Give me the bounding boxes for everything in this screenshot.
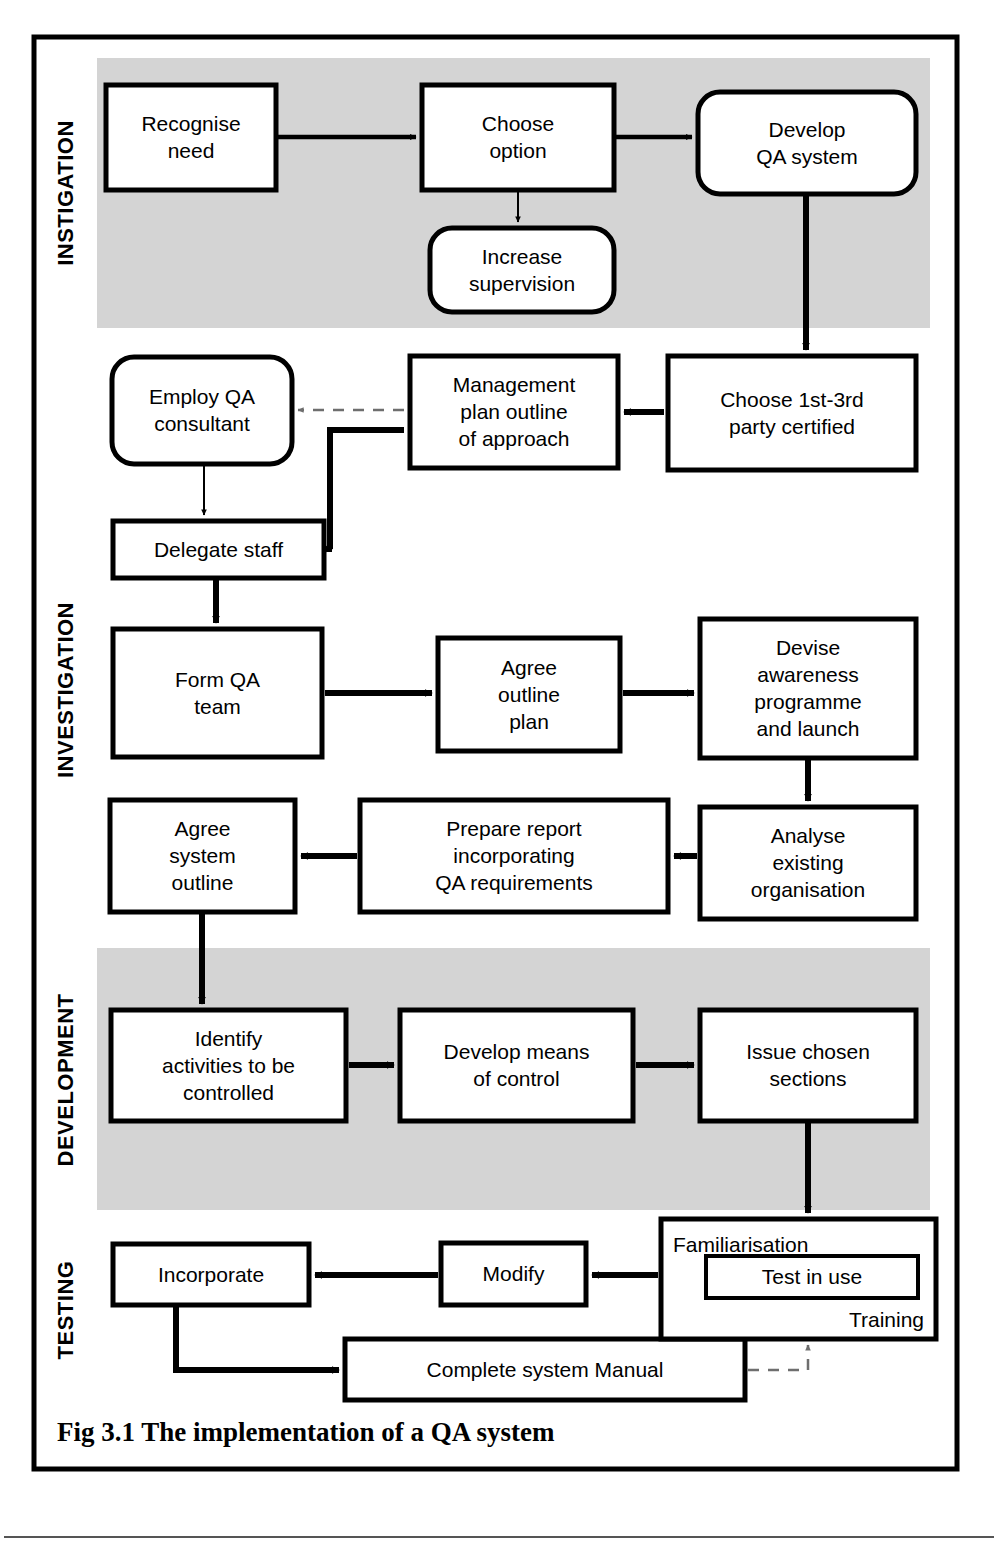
connector-e-management-to-delegate xyxy=(330,430,404,549)
node-label: team xyxy=(194,695,241,718)
node-box xyxy=(700,1010,916,1121)
node-label: Issue chosen xyxy=(746,1040,870,1063)
node-label: and launch xyxy=(757,717,860,740)
node-label: incorporating xyxy=(453,844,574,867)
node-box xyxy=(422,85,614,190)
node-label: sections xyxy=(769,1067,846,1090)
node-label: Identify xyxy=(195,1027,263,1050)
node-familiarisation-group[interactable]: FamiliarisationTest in useTraining xyxy=(661,1219,936,1339)
node-label: party certified xyxy=(729,415,855,438)
node-label: consultant xyxy=(154,412,250,435)
node-devise-awareness[interactable]: Deviseawarenessprogrammeand launch xyxy=(700,619,916,758)
node-box xyxy=(113,629,322,757)
node-form-qa-team[interactable]: Form QAteam xyxy=(113,629,322,757)
node-label: Agree xyxy=(501,656,557,679)
node-increase-supervision[interactable]: Increasesupervision xyxy=(430,228,614,312)
node-label: Devise xyxy=(776,636,840,659)
node-label: Recognise xyxy=(141,112,240,135)
node-box xyxy=(430,228,614,312)
node-box xyxy=(106,85,276,190)
node-incorporate[interactable]: Incorporate xyxy=(113,1244,309,1305)
node-label: need xyxy=(168,139,215,162)
node-employ-qa-consultant[interactable]: Employ QAconsultant xyxy=(112,357,292,464)
node-label: Develop xyxy=(768,118,845,141)
node-label: outline xyxy=(172,871,234,894)
node-analyse-existing[interactable]: Analyseexistingorganisation xyxy=(700,807,916,919)
node-recognise-need[interactable]: Recogniseneed xyxy=(106,85,276,190)
section-label-testing: TESTING xyxy=(53,1261,78,1360)
node-label: programme xyxy=(754,690,861,713)
node-develop-qa-system[interactable]: DevelopQA system xyxy=(698,92,916,194)
node-label: awareness xyxy=(757,663,859,686)
figure-container: RecogniseneedChooseoptionDevelopQA syste… xyxy=(0,0,998,1555)
node-label: organisation xyxy=(751,878,865,901)
training-label: Training xyxy=(849,1308,924,1331)
qa-implementation-flowchart: RecogniseneedChooseoptionDevelopQA syste… xyxy=(0,0,998,1555)
node-agree-outline-plan[interactable]: Agreeoutlineplan xyxy=(438,638,620,751)
node-label: Management xyxy=(453,373,576,396)
node-label: Choose xyxy=(482,112,554,135)
node-label: option xyxy=(489,139,546,162)
node-label: Develop means xyxy=(444,1040,590,1063)
figure-caption: Fig 3.1 The implementation of a QA syste… xyxy=(57,1417,555,1447)
node-label: of approach xyxy=(459,427,570,450)
node-label: controlled xyxy=(183,1081,274,1104)
node-label: outline xyxy=(498,683,560,706)
node-agree-system-outline[interactable]: Agreesystemoutline xyxy=(110,800,295,912)
node-develop-means-control[interactable]: Develop meansof control xyxy=(400,1010,633,1121)
node-label: existing xyxy=(772,851,843,874)
node-label: plan outline xyxy=(460,400,567,423)
node-choose-party-certified[interactable]: Choose 1st-3rdparty certified xyxy=(668,356,916,470)
node-box xyxy=(668,356,916,470)
node-modify[interactable]: Modify xyxy=(441,1243,586,1305)
node-label: Incorporate xyxy=(158,1263,264,1286)
node-label: Increase xyxy=(482,245,563,268)
section-label-development: DEVELOPMENT xyxy=(53,993,78,1166)
node-label: QA system xyxy=(756,145,858,168)
node-choose-option[interactable]: Chooseoption xyxy=(422,85,614,190)
node-management-plan-outline[interactable]: Managementplan outlineof approach xyxy=(410,356,618,468)
connector-e-manual-to-familiarisation xyxy=(748,1345,808,1370)
node-label: system xyxy=(169,844,236,867)
node-issue-chosen-sections[interactable]: Issue chosensections xyxy=(700,1010,916,1121)
node-label: Form QA xyxy=(175,668,260,691)
section-label-investigation: INVESTIGATION xyxy=(53,602,78,778)
node-prepare-report[interactable]: Prepare reportincorporatingQA requiremen… xyxy=(360,800,668,912)
section-label-instigation: INSTIGATION xyxy=(53,120,78,266)
node-box xyxy=(112,357,292,464)
node-label: activities to be xyxy=(162,1054,295,1077)
test-in-use-label: Test in use xyxy=(762,1265,862,1288)
node-label: supervision xyxy=(469,272,575,295)
node-box xyxy=(698,92,916,194)
node-label: Modify xyxy=(483,1262,545,1285)
node-label: plan xyxy=(509,710,549,733)
node-identify-activities[interactable]: Identifyactivities to becontrolled xyxy=(111,1010,346,1121)
node-label: Complete system Manual xyxy=(427,1358,664,1381)
node-label: Choose 1st-3rd xyxy=(720,388,864,411)
node-box xyxy=(400,1010,633,1121)
node-label: Prepare report xyxy=(446,817,582,840)
connector-e-incorporate-to-manual xyxy=(176,1307,339,1370)
node-label: Analyse xyxy=(771,824,846,847)
node-label: Agree xyxy=(174,817,230,840)
node-delegate-staff[interactable]: Delegate staff xyxy=(113,521,324,578)
node-label: Employ QA xyxy=(149,385,255,408)
node-label: of control xyxy=(473,1067,559,1090)
section-label-layer: INSTIGATIONINVESTIGATIONDEVELOPMENTTESTI… xyxy=(53,120,78,1359)
node-label: Delegate staff xyxy=(154,538,283,561)
familiarisation-label: Familiarisation xyxy=(673,1233,808,1256)
node-complete-system-manual[interactable]: Complete system Manual xyxy=(345,1339,745,1400)
node-label: QA requirements xyxy=(435,871,593,894)
